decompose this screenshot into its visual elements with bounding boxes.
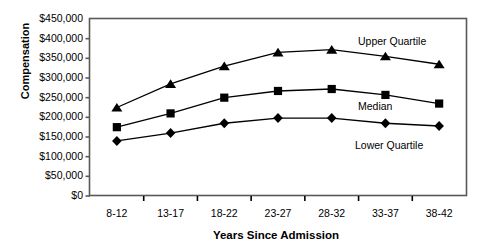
series-annotation-label: Median: [358, 101, 392, 112]
y-tick-label: $150,000: [39, 131, 83, 142]
x-tick-label: 38-42: [426, 208, 453, 219]
series-annotation-label: Lower Quartile: [355, 140, 423, 151]
y-tick-label: $50,000: [45, 170, 83, 181]
x-tick-label: 13-17: [157, 208, 184, 219]
y-axis-tick-labels: $450,000$400,000$350,000$300,000$250,000…: [0, 0, 83, 252]
series-annotation-label: Upper Quartile: [358, 36, 426, 47]
x-tick-label: 33-37: [372, 208, 399, 219]
x-tick-label: 18-22: [211, 208, 238, 219]
y-tick-label: $250,000: [39, 92, 83, 103]
x-tick-label: 8-12: [106, 208, 127, 219]
y-tick-label: $400,000: [39, 33, 83, 44]
y-tick-label: $200,000: [39, 111, 83, 122]
x-axis-title: Years Since Admission: [85, 229, 467, 241]
y-tick-label: $350,000: [39, 52, 83, 63]
x-tick-label: 23-27: [265, 208, 292, 219]
x-axis-ticks: [144, 196, 413, 201]
y-tick-label: $0: [71, 190, 83, 201]
compensation-line-chart: Compensation $450,000$400,000$350,000$30…: [0, 0, 487, 252]
x-tick-label: 28-32: [318, 208, 345, 219]
y-tick-label: $300,000: [39, 72, 83, 83]
y-tick-label: $100,000: [39, 151, 83, 162]
y-tick-label: $450,000: [39, 13, 83, 24]
